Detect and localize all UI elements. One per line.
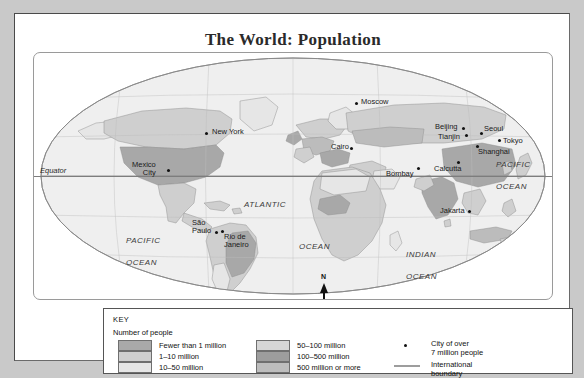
key-heading: KEY [113, 315, 129, 324]
key-swatch [118, 340, 152, 351]
ocean-label: INDIAN [406, 251, 436, 259]
scale-top-end: 2,500 mi [450, 299, 475, 300]
map-key: KEY Number of people Fewer than 1 millio… [103, 308, 573, 374]
key-label: 10–50 million [159, 363, 203, 372]
key-city-dot-icon [404, 344, 407, 347]
city-label-bombay: Bombay [386, 170, 414, 178]
equator-label: Equator [40, 167, 66, 175]
ocean-label: OCEAN [126, 259, 157, 267]
compass-rose: N S W E [296, 277, 352, 300]
key-label: 500 million or more [297, 363, 361, 372]
city-label-text: Rio de Janeiro [224, 232, 249, 249]
key-swatch [256, 340, 290, 351]
key-swatch [118, 351, 152, 362]
compass-icon [296, 277, 352, 300]
ocean-label: OCEAN [496, 183, 527, 191]
city-label-moscow: Moscow [361, 98, 389, 106]
city-label-tianjin: Tianjin [438, 133, 460, 141]
scale-bar-graphic [364, 299, 484, 300]
ocean-label: OCEAN [299, 243, 330, 251]
ocean-label: ATLANTIC [244, 201, 286, 209]
city-label-cairo: Cairo [331, 143, 349, 151]
scale-top-start: 0 [398, 299, 402, 300]
city-label-jakarta: Jakarta [440, 207, 465, 215]
ocean-label: PACIFIC [126, 237, 160, 245]
city-label-beijing: Beijing [435, 123, 458, 131]
key-label: International boundary [431, 360, 472, 378]
city-label-tokyo: Tokyo [503, 137, 523, 145]
city-label-text: Mexico City [132, 160, 156, 177]
scale-bar: SCALE 0 2,500 mi 0 2,500 km [364, 299, 484, 300]
city-label-calcutta: Calcutta [434, 165, 462, 173]
key-swatch [256, 351, 290, 362]
key-label: 50–100 million [297, 341, 345, 350]
city-label-mexico-city: Mexico City [132, 161, 156, 177]
equator-line [34, 176, 552, 177]
compass-north: N [321, 273, 326, 280]
city-label-shanghai: Shanghai [478, 148, 510, 156]
key-swatch [118, 362, 152, 373]
key-boundary-line-icon [394, 365, 420, 367]
key-label: Fewer than 1 million [159, 341, 226, 350]
ocean-label: PACIFIC [496, 161, 530, 169]
city-label-sao-paulo: São Paulo [192, 219, 211, 235]
map-figure: Equator ATLANTIC OCEAN PACIFIC OCEAN IND… [33, 52, 553, 300]
city-label-rio: Rio de Janeiro [224, 233, 249, 249]
map-page: The World: Population [14, 13, 570, 361]
city-label-seoul: Seoul [484, 125, 503, 133]
city-label-new-york: New York [212, 128, 244, 136]
key-swatch [256, 362, 290, 373]
key-label: 100–500 million [297, 352, 350, 361]
city-label-text: São Paulo [192, 218, 211, 235]
key-label: City of over 7 million people [431, 339, 483, 357]
key-subheading: Number of people [113, 328, 173, 337]
key-label: 1–10 million [159, 352, 199, 361]
page-title: The World: Population [15, 30, 571, 50]
ocean-label: OCEAN [406, 273, 437, 281]
